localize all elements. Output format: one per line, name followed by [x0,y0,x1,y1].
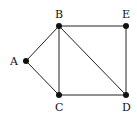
node-E [123,23,129,29]
node-label-D: D [122,101,131,114]
node-C [56,92,62,98]
node-A [23,58,29,64]
edge-B-D [59,26,126,95]
edge-A-C [26,61,59,95]
nodes [23,23,129,98]
graph-diagram: ABECD [0,0,137,116]
node-label-B: B [55,8,63,21]
node-label-E: E [122,8,130,21]
node-label-C: C [55,101,63,114]
node-B [56,23,62,29]
edge-A-B [26,26,59,61]
node-label-A: A [9,55,19,68]
node-D [123,92,129,98]
edges [26,26,126,95]
